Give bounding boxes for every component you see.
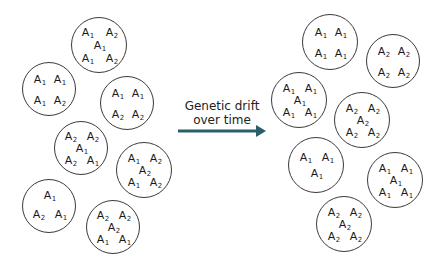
time-arrow-icon — [0, 0, 440, 265]
